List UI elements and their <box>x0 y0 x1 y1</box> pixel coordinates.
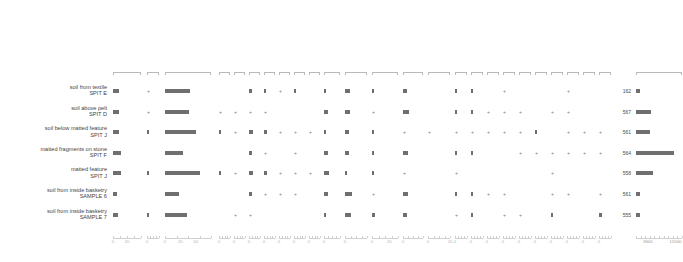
column-scale-sphagnum <box>599 72 611 75</box>
axis-tick <box>645 236 646 238</box>
trace-presence-marker: + <box>519 212 522 217</box>
value-bar <box>113 130 119 134</box>
axis-tick <box>589 236 590 238</box>
sum-total-value: 555 <box>623 212 631 217</box>
axis-line <box>234 238 245 239</box>
axis-tick <box>528 236 529 238</box>
axis-tick-label: 0 <box>470 240 472 244</box>
axis-tick <box>413 236 414 238</box>
axis-line <box>487 238 499 239</box>
axis-tick <box>650 236 651 238</box>
axis-tick-label: 20 <box>448 240 453 244</box>
value-bar <box>535 130 537 134</box>
value-bar <box>345 130 349 134</box>
axis-tick <box>379 236 380 238</box>
column-scale-salix <box>279 72 290 75</box>
axis-tick <box>328 236 329 238</box>
value-bar <box>636 89 640 93</box>
axis-tick <box>150 236 151 238</box>
axis-tick <box>177 236 178 238</box>
column-scale-corylus <box>165 72 211 75</box>
trace-presence-marker: + <box>567 89 570 94</box>
trace-presence-marker: + <box>599 130 602 135</box>
sum-total-value: 567 <box>623 109 631 114</box>
axis-tick-label: 0 <box>248 240 250 244</box>
axis-tick <box>257 236 258 238</box>
sample-row-label: soil above peltSPIT D <box>71 105 107 118</box>
value-bar <box>219 171 221 175</box>
axis-tick <box>538 236 539 238</box>
axis-tick-label: 0 <box>344 240 346 244</box>
trace-presence-marker: + <box>294 150 297 155</box>
value-bar <box>324 151 328 155</box>
axis-tick <box>641 236 642 238</box>
axis-tick <box>450 236 451 238</box>
value-bar <box>599 213 602 217</box>
axis-line <box>567 238 579 239</box>
axis-tick <box>423 236 424 238</box>
sample-row-label: soil from textileSPIT E <box>70 84 107 97</box>
axis-tick <box>522 236 523 238</box>
axis-tick <box>159 236 160 238</box>
axis-tick-label: 0 <box>263 240 265 244</box>
sample-label-line2: SPIT J <box>45 132 107 138</box>
value-bar <box>551 213 553 217</box>
trace-presence-marker: + <box>599 192 602 197</box>
column-scale-ranunculus <box>503 72 515 75</box>
column-scale-urtica <box>535 72 547 75</box>
axis-tick <box>445 236 446 238</box>
axis-tick-label: 20 <box>125 240 130 244</box>
column-scale-calluna-vulgaris <box>345 72 367 75</box>
value-bar <box>403 192 408 196</box>
trace-presence-marker: + <box>264 150 267 155</box>
axis-tick <box>477 236 478 238</box>
trace-presence-marker: + <box>372 192 375 197</box>
value-bar <box>165 110 189 114</box>
axis-tick <box>595 236 596 238</box>
value-bar <box>113 89 119 93</box>
axis-tick <box>654 236 655 238</box>
sum-total-value: 558 <box>623 171 631 176</box>
axis-tick <box>554 236 555 238</box>
axis-tick <box>474 236 475 238</box>
axis-tick <box>309 236 310 238</box>
trace-presence-marker: + <box>551 150 554 155</box>
column-scale-alnus <box>113 72 141 75</box>
axis-tick <box>285 236 286 238</box>
value-bar <box>372 151 374 155</box>
axis-line <box>147 238 159 239</box>
value-bar <box>113 192 117 196</box>
trace-presence-marker: + <box>599 150 602 155</box>
axis-tick <box>398 236 399 238</box>
column-scale-plantago-lanceolata <box>471 72 483 75</box>
axis-tick-label: 0 <box>598 240 600 244</box>
axis-tick <box>531 236 532 238</box>
axis-line <box>455 238 467 239</box>
axis-tick-label: 0 <box>427 240 429 244</box>
column-scale-lactuceae <box>455 72 467 75</box>
value-bar <box>372 171 374 175</box>
value-bar <box>165 89 190 93</box>
value-bar <box>294 89 296 93</box>
trace-presence-marker: + <box>403 130 406 135</box>
axis-tick <box>506 236 507 238</box>
trace-presence-marker: + <box>455 171 458 176</box>
trace-presence-marker: + <box>551 171 554 176</box>
value-bar <box>113 110 119 114</box>
axis-tick <box>362 236 363 238</box>
column-scale-prunus-spinosa <box>249 72 260 75</box>
axis-tick-label: 0 <box>233 240 235 244</box>
value-bar <box>165 151 183 155</box>
axis-tick <box>294 236 295 238</box>
axis-tick-label: 0 <box>371 240 373 244</box>
axis-tick <box>147 236 148 238</box>
value-bar <box>636 171 653 175</box>
axis-tick <box>560 236 561 238</box>
value-bar <box>264 130 267 134</box>
trace-presence-marker: + <box>234 130 237 135</box>
axis-tick <box>503 236 504 238</box>
axis-tick <box>219 236 220 238</box>
value-bar <box>249 89 252 93</box>
axis-tick <box>512 236 513 238</box>
